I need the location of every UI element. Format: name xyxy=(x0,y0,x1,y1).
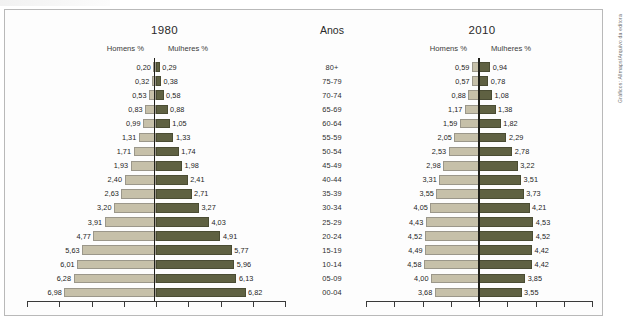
men-half: 2,98 xyxy=(366,159,479,173)
women-value-label: 0,29 xyxy=(162,63,176,72)
men-bar xyxy=(465,105,479,115)
axis-tick xyxy=(451,301,452,307)
women-bar xyxy=(156,203,199,213)
age-group-label: 40-44 xyxy=(304,173,360,187)
men-value-label: 2,98 xyxy=(426,161,440,170)
women-bar xyxy=(479,175,521,185)
women-half: 6,82 xyxy=(156,286,285,300)
men-value-label: 4,58 xyxy=(407,260,421,269)
men-bar xyxy=(121,189,156,199)
men-half: 6,98 xyxy=(27,286,156,300)
men-value-label: 1,71 xyxy=(117,147,131,156)
men-half: 0,32 xyxy=(27,74,156,88)
men-bar xyxy=(131,161,156,171)
men-half: 0,53 xyxy=(27,88,156,102)
x-axis-2010 xyxy=(366,301,592,310)
women-value-label: 1,98 xyxy=(184,161,198,170)
panel-title-2010: 2010 xyxy=(366,24,598,36)
women-half: 1,98 xyxy=(156,159,285,173)
women-value-label: 4,53 xyxy=(536,218,550,227)
women-legend-label-2010: Mulheres % xyxy=(479,44,592,53)
axis-tick xyxy=(394,301,395,307)
men-value-label: 2,63 xyxy=(105,189,119,198)
men-half: 4,05 xyxy=(366,201,479,215)
men-half: 6,01 xyxy=(27,257,156,271)
women-bar xyxy=(479,76,488,86)
women-bar xyxy=(479,62,490,72)
axis-tick xyxy=(285,301,286,307)
women-half: 1,82 xyxy=(479,116,592,130)
women-bar xyxy=(156,217,209,227)
women-bar xyxy=(479,245,532,255)
women-bar xyxy=(479,133,506,143)
men-value-label: 5,63 xyxy=(65,246,79,255)
women-value-label: 3,85 xyxy=(528,274,542,283)
men-bar xyxy=(449,147,479,157)
age-group-label: 45-49 xyxy=(304,159,360,173)
women-half: 3,51 xyxy=(479,173,592,187)
pyramid-row: 4,774,91 xyxy=(27,229,285,243)
men-value-label: 6,01 xyxy=(60,260,74,269)
women-value-label: 4,03 xyxy=(211,218,225,227)
women-bar xyxy=(479,189,524,199)
women-half: 3,73 xyxy=(479,187,592,201)
men-bar xyxy=(64,288,156,298)
women-half: 3,22 xyxy=(479,159,592,173)
age-group-column: Anos 80+75-7970-7465-6960-6455-5950-5445… xyxy=(304,10,360,315)
men-half: 0,59 xyxy=(366,60,479,74)
women-half: 1,05 xyxy=(156,116,285,130)
men-half: 3,55 xyxy=(366,187,479,201)
women-value-label: 1,33 xyxy=(176,133,190,142)
pyramid-row: 3,203,27 xyxy=(27,201,285,215)
men-bar xyxy=(425,245,479,255)
axis-tick xyxy=(564,301,565,307)
men-bar xyxy=(454,133,479,143)
women-value-label: 0,78 xyxy=(491,77,505,86)
women-value-label: 4,42 xyxy=(535,260,549,269)
men-value-label: 2,40 xyxy=(108,175,122,184)
pyramid-row: 1,931,98 xyxy=(27,159,285,173)
men-bar xyxy=(430,203,479,213)
men-bar xyxy=(74,274,156,284)
women-value-label: 3,51 xyxy=(524,175,538,184)
women-bar xyxy=(156,62,160,72)
men-half: 4,00 xyxy=(366,271,479,285)
age-group-label: 35-39 xyxy=(304,187,360,201)
men-half: 2,63 xyxy=(27,187,156,201)
women-bar xyxy=(479,90,492,100)
pyramid-row: 6,015,96 xyxy=(27,257,285,271)
age-group-label: 50-54 xyxy=(304,145,360,159)
women-half: 2,71 xyxy=(156,187,285,201)
women-half: 4,03 xyxy=(156,215,285,229)
pyramid-row: 0,200,29 xyxy=(27,60,285,74)
women-bar xyxy=(156,288,246,298)
women-bar xyxy=(479,274,525,284)
men-half: 0,88 xyxy=(366,88,479,102)
women-bar xyxy=(156,231,220,241)
women-half: 1,38 xyxy=(479,102,592,116)
women-value-label: 6,82 xyxy=(248,288,262,297)
women-half: 0,78 xyxy=(479,74,592,88)
women-value-label: 1,08 xyxy=(494,91,508,100)
men-half: 4,43 xyxy=(366,215,479,229)
age-group-label: 30-34 xyxy=(304,201,360,215)
men-half: 4,49 xyxy=(366,243,479,257)
women-half: 2,29 xyxy=(479,130,592,144)
men-value-label: 0,83 xyxy=(128,105,142,114)
women-half: 4,91 xyxy=(156,229,285,243)
men-value-label: 3,68 xyxy=(418,288,432,297)
pyramid-row: 1,311,33 xyxy=(27,130,285,144)
men-bar xyxy=(125,175,157,185)
panel-legend-2010: Homens % Mulheres % xyxy=(366,42,592,55)
men-half: 1,17 xyxy=(366,102,479,116)
women-value-label: 4,42 xyxy=(535,246,549,255)
age-group-list: 80+75-7970-7465-6960-6455-5950-5445-4940… xyxy=(304,60,360,300)
axis-tick xyxy=(92,301,93,307)
men-half: 4,52 xyxy=(366,229,479,243)
men-value-label: 0,59 xyxy=(455,63,469,72)
women-bar xyxy=(479,119,501,129)
women-half: 5,96 xyxy=(156,257,285,271)
women-half: 0,58 xyxy=(156,88,285,102)
age-group-label: 55-59 xyxy=(304,130,360,144)
men-value-label: 2,05 xyxy=(438,133,452,142)
